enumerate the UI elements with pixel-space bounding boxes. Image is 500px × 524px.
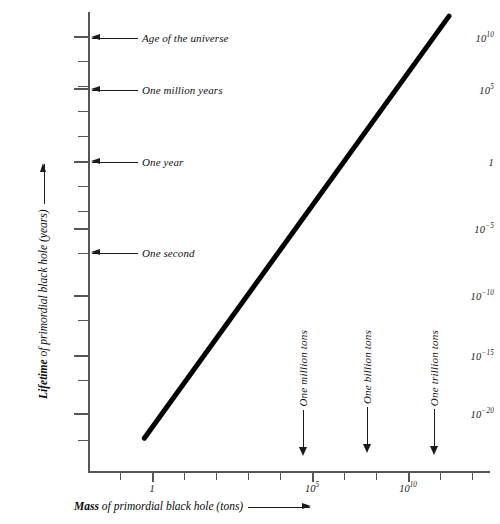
x-annotation-one-trillion-tons: One trillion tons: [426, 330, 442, 447]
y-tick-minor: [78, 136, 88, 137]
y-axis-line: [88, 12, 90, 472]
y-tick-minor: [78, 211, 88, 212]
left-arrow-icon: [92, 90, 138, 91]
y-tick-major: [74, 88, 88, 90]
y-tick-minor: [78, 380, 88, 381]
data-series-line: [0, 0, 500, 524]
up-arrow-icon: [44, 164, 45, 204]
x-tick-label: 1010: [399, 481, 417, 494]
x-tick-label: 1: [149, 481, 154, 494]
x-tick-label: 105: [305, 481, 319, 494]
y-tick-minor: [78, 61, 88, 62]
y-annotation-age-of-universe: Age of the universe: [92, 31, 229, 45]
y-annotation-one-year: One year: [92, 155, 183, 169]
x-tick-minor: [184, 472, 185, 480]
left-arrow-icon: [92, 162, 138, 163]
y-tick-major: [74, 161, 88, 163]
x-axis-title-rest: of primordial black hole (tons): [99, 500, 243, 512]
left-arrow-icon: [92, 253, 138, 254]
x-annotation-one-million-tons: One million tons: [295, 330, 311, 448]
down-arrow-icon: [367, 407, 368, 445]
y-axis-title-rest: of primordial black hole (years): [37, 209, 49, 359]
x-tick-minor: [120, 472, 121, 480]
y-tick-major: [74, 295, 88, 297]
y-tick-major: [74, 36, 88, 38]
x-tick-minor: [216, 472, 217, 480]
y-axis-title: Lifetime of primordial black hole (years…: [37, 129, 49, 399]
y-tick-label: 1010: [428, 31, 500, 44]
y-annotation-one-second: One second: [92, 246, 195, 260]
x-annotation-one-billion-tons: One billion tons: [359, 330, 375, 445]
x-tick-minor: [376, 472, 377, 480]
x-axis-line: [88, 471, 490, 473]
x-tick-minor: [280, 472, 281, 480]
down-arrow-icon: [434, 409, 435, 447]
y-tick-minor: [78, 186, 88, 187]
y-tick-minor: [78, 111, 88, 112]
y-axis-title-bold: Lifetime: [37, 359, 49, 399]
y-annotation-one-million-years: One million years: [92, 83, 223, 97]
left-arrow-icon: [92, 38, 138, 39]
y-tick-minor: [78, 320, 88, 321]
y-tick-major: [74, 228, 88, 230]
x-axis-title: Mass of primordial black hole (tons): [74, 500, 310, 512]
y-tick-minor: [78, 253, 88, 254]
y-tick-label: 10−10: [428, 289, 500, 302]
x-tick-minor: [472, 472, 473, 480]
y-tick-minor: [78, 440, 88, 441]
right-arrow-icon: [248, 507, 310, 508]
y-tick-major: [74, 355, 88, 357]
chart-figure: 1010 105 1 10−5 10−10 10−15 10−20 1 105 …: [0, 0, 500, 524]
y-tick-label: 10−5: [428, 222, 500, 235]
y-tick-label: 1: [428, 155, 500, 168]
x-tick-minor: [344, 472, 345, 480]
x-tick-minor: [248, 472, 249, 480]
down-arrow-icon: [303, 410, 304, 448]
x-axis-title-bold: Mass: [74, 500, 99, 512]
y-tick-label: 105: [428, 83, 500, 96]
y-tick-minor: [78, 86, 88, 87]
y-tick-major: [74, 413, 88, 415]
x-tick-minor: [440, 472, 441, 480]
